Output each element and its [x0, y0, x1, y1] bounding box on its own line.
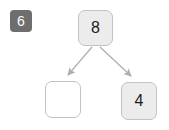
question-number-badge: 6	[10, 10, 32, 32]
tree-node-root-value: 8	[91, 20, 100, 36]
tree-node-root[interactable]: 8	[78, 10, 113, 46]
diagram-canvas: 6 8 4	[0, 0, 169, 130]
tree-node-left-child[interactable]	[45, 81, 81, 118]
edge-top-to-left	[68, 47, 92, 75]
edge-top-to-right	[100, 47, 131, 76]
tree-node-right-child[interactable]: 4	[121, 82, 157, 120]
tree-node-right-child-value: 4	[135, 93, 144, 109]
